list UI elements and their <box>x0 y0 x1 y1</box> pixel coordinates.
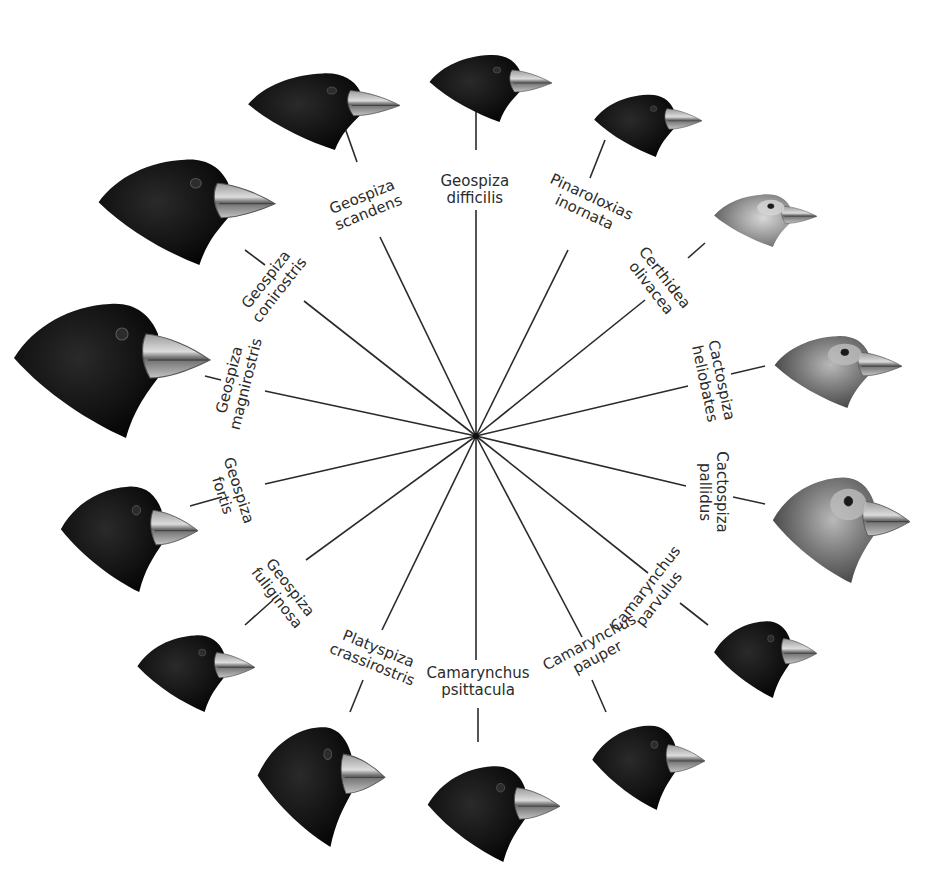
finch-head-camarynchus-parvulus <box>714 621 817 698</box>
finch-head-camarynchus-pauper <box>592 726 705 810</box>
finch-head-geospiza-scandens <box>248 73 400 150</box>
species-epithet: psittacula <box>427 682 530 699</box>
eye-icon <box>768 204 774 209</box>
leader-line-cactospiza-pallidus <box>733 497 765 504</box>
leader-line-camarynchus-pauper <box>592 680 606 712</box>
leader-line-geospiza-scandens <box>345 128 357 162</box>
finch-head-camarynchus-psittacula <box>428 766 560 862</box>
spoke-pinaroloxias-inornata <box>476 250 568 436</box>
eye-icon <box>493 67 501 73</box>
finch-head-geospiza-conirostris <box>99 160 275 265</box>
eye-icon <box>841 349 849 355</box>
finch-head-pinaroloxias-inornata <box>594 95 702 157</box>
genus-name: Geospiza <box>441 173 510 190</box>
leader-line-geospiza-fuliginosa <box>245 600 273 625</box>
genus-name: Camarynchus <box>427 665 530 682</box>
eye-icon <box>190 179 201 188</box>
eye-icon <box>844 497 852 506</box>
eye-icon <box>327 87 336 94</box>
eye-icon <box>497 783 505 792</box>
eye-icon <box>651 741 658 749</box>
eye-icon <box>768 635 774 642</box>
eye-icon <box>199 649 206 656</box>
spoke-geospiza-conirostris <box>304 301 476 436</box>
finch-head-geospiza-magnirostris <box>14 304 210 438</box>
finch-head-platyspiza-crassirostris <box>258 727 385 847</box>
species-epithet: pallidus <box>696 451 713 533</box>
leader-line-pinaroloxias-inornata <box>590 140 605 178</box>
species-label-camarynchus-psittacula: Camarynchuspsittacula <box>427 665 530 699</box>
eye-icon <box>116 328 128 340</box>
leader-line-geospiza-magnirostris <box>205 376 221 380</box>
finch-head-geospiza-fortis <box>61 487 198 592</box>
spoke-camarynchus-pauper <box>476 436 582 637</box>
eye-icon <box>650 106 657 112</box>
leader-line-camarynchus-parvulus <box>680 603 708 625</box>
finch-head-certhidea-olivacea <box>714 194 817 247</box>
finch-head-cactospiza-pallidus <box>773 478 910 583</box>
species-epithet: difficilis <box>441 190 510 207</box>
spoke-geospiza-scandens <box>380 237 476 436</box>
eye-icon <box>132 506 140 515</box>
leader-line-geospiza-conirostris <box>245 250 265 265</box>
eye-icon <box>324 749 332 760</box>
leader-line-platyspiza-crassirostris <box>350 680 363 712</box>
spoke-geospiza-magnirostris <box>265 391 476 436</box>
leader-line-cactospiza-heliobates <box>731 366 765 374</box>
finch-head-geospiza-difficilis <box>430 55 553 122</box>
species-label-geospiza-difficilis: Geospizadifficilis <box>441 173 510 207</box>
spoke-platyspiza-crassirostris <box>382 436 476 630</box>
finch-radial-diagram <box>0 0 942 890</box>
leader-line-certhidea-olivacea <box>688 243 705 258</box>
species-label-cactospiza-pallidus: Cactospizapallidus <box>696 451 730 533</box>
finch-head-cactospiza-heliobates <box>775 336 902 408</box>
center-hub <box>473 433 479 439</box>
finch-head-geospiza-fuliginosa <box>137 635 255 712</box>
genus-name: Cactospiza <box>713 451 730 533</box>
